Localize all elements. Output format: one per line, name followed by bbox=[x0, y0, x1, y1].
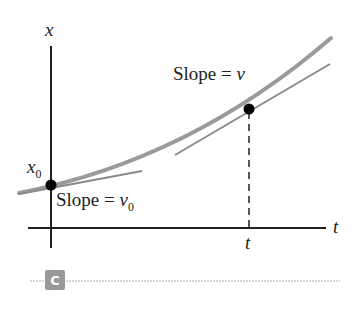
position-curve bbox=[19, 38, 331, 193]
t-tick-label: t bbox=[245, 233, 250, 252]
point-initial bbox=[46, 180, 57, 191]
panel-badge: C bbox=[45, 270, 65, 290]
position-time-graph bbox=[0, 0, 356, 313]
slope-label-initial: Slope = v0 bbox=[56, 190, 134, 209]
y-axis-label: x bbox=[45, 20, 53, 39]
point-t bbox=[244, 104, 255, 115]
slope-label-t: Slope = v bbox=[173, 64, 245, 83]
t-axis-label: t bbox=[333, 217, 338, 236]
x0-label: x0 bbox=[27, 157, 41, 176]
